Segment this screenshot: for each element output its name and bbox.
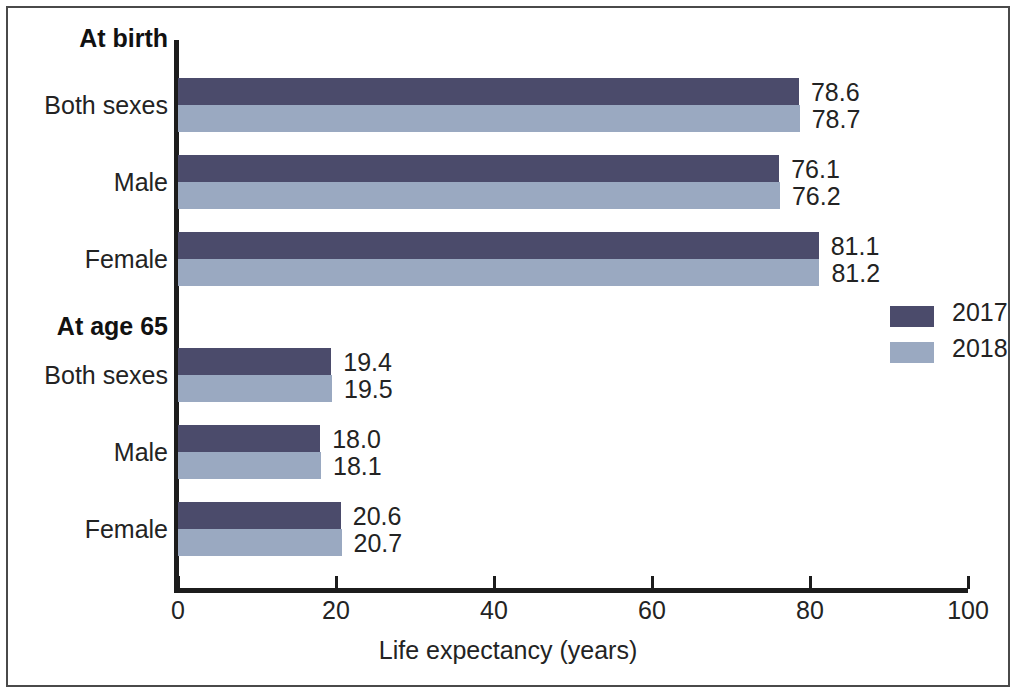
bar-value-label: 18.0 [332, 424, 381, 453]
bar-value-label: 18.1 [333, 451, 382, 480]
bar-value-label: 81.1 [831, 231, 880, 260]
bar-value-label: 76.1 [791, 154, 840, 183]
x-axis-tick [177, 576, 180, 589]
bar-value-label: 76.2 [792, 181, 841, 210]
x-axis-tick [493, 576, 496, 589]
x-axis-tick [335, 576, 338, 589]
bar [178, 375, 332, 402]
x-axis-tick-label: 0 [171, 596, 185, 625]
category-label: Male [114, 168, 168, 197]
bar [178, 348, 331, 375]
x-axis-tick [651, 576, 654, 589]
bar-value-label: 81.2 [831, 258, 880, 287]
x-axis-tick-label: 60 [638, 596, 666, 625]
bar-value-label: 78.6 [811, 77, 860, 106]
category-label: Both sexes [44, 361, 168, 390]
x-axis-tick-label: 100 [947, 596, 989, 625]
x-axis-tick-label: 40 [480, 596, 508, 625]
x-axis-tick [809, 576, 812, 589]
chart-figure: 020406080100 Life expectancy (years) At … [0, 0, 1016, 693]
category-label: Male [114, 438, 168, 467]
x-axis-tick-label: 80 [796, 596, 824, 625]
bar [178, 425, 320, 452]
bar [178, 529, 342, 556]
category-label: Female [85, 245, 168, 274]
x-axis-tick [967, 576, 970, 589]
legend-swatch [890, 306, 934, 327]
category-label: Female [85, 515, 168, 544]
bar [178, 259, 819, 286]
legend-label: 2018 [952, 334, 1008, 363]
x-axis-title: Life expectancy (years) [0, 636, 1016, 665]
bar [178, 182, 780, 209]
bar-value-label: 20.6 [353, 501, 402, 530]
bar [178, 502, 341, 529]
legend-label: 2017 [952, 298, 1008, 327]
x-axis-line [174, 588, 968, 593]
group-label: At birth [79, 24, 168, 53]
bar [178, 105, 800, 132]
bar-value-label: 19.5 [344, 374, 393, 403]
bar [178, 232, 819, 259]
legend-swatch [890, 342, 934, 363]
group-label: At age 65 [57, 312, 168, 341]
bar [178, 78, 799, 105]
bar [178, 155, 779, 182]
bar [178, 452, 321, 479]
bar-value-label: 19.4 [343, 347, 392, 376]
x-axis-tick-label: 20 [322, 596, 350, 625]
bar-value-label: 20.7 [354, 528, 403, 557]
bar-value-label: 78.7 [812, 104, 861, 133]
category-label: Both sexes [44, 91, 168, 120]
